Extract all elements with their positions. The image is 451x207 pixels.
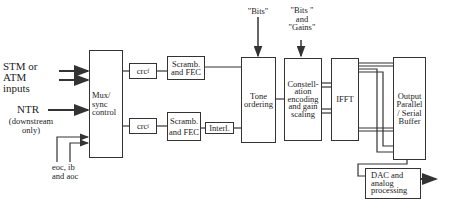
scramb-int-label-2: and FEC — [169, 128, 199, 137]
bits-gains-label: "Bits " and "Gains" — [284, 6, 320, 32]
output-buffer-block: Output Parallel / Serial Buffer — [393, 57, 426, 160]
crc-f-subscript: f — [147, 67, 149, 76]
eoc-line-2: and aoc — [52, 172, 92, 181]
crc-interleaved-block: crci — [129, 118, 157, 134]
scramb-fast-label-2: and FEC — [171, 68, 201, 77]
scramb-int-label-1: Scramb. — [169, 117, 199, 126]
stm-atm-inputs-label: STM or ATM inputs — [3, 61, 55, 94]
crc-i-subscript: i — [147, 122, 149, 131]
mux-sync-control-block: Mux/ sync control — [89, 50, 123, 158]
scramb-fec-fast-block: Scramb. and FEC — [167, 56, 205, 80]
eoc-ib-aoc-label: eoc, ib and aoc — [52, 163, 92, 181]
output-label-4: Buffer — [397, 117, 423, 126]
tone-ordering-block: Tone ordering — [241, 57, 276, 143]
ntr-label: NTR — [8, 104, 48, 115]
mux-label-3: control — [92, 108, 116, 117]
bits-gains-line-3: "Gains" — [284, 23, 320, 32]
tone-label-2: ordering — [244, 100, 273, 109]
bits-label: "Bits" — [243, 7, 273, 16]
crc-fast-block: crcf — [129, 63, 157, 79]
inputs-label: inputs — [3, 83, 55, 94]
scramb-fec-interleaved-block: Scramb. and FEC — [167, 112, 201, 141]
crc-i-label: crc — [137, 122, 147, 131]
ifft-block: IFFT — [331, 58, 359, 141]
dac-analog-block: DAC and analog processing — [365, 168, 421, 199]
crc-f-label: crc — [137, 67, 147, 76]
ntr-note: (downstream only) — [0, 117, 62, 135]
constellation-encoding-block: Constell- ation encoding and gain scalin… — [284, 58, 322, 141]
ntr-note-line-2: only) — [0, 126, 62, 135]
interleaver-block: Interl. — [205, 122, 234, 134]
constell-label-5: scaling — [287, 111, 318, 119]
dac-label-3: processing — [371, 187, 407, 195]
